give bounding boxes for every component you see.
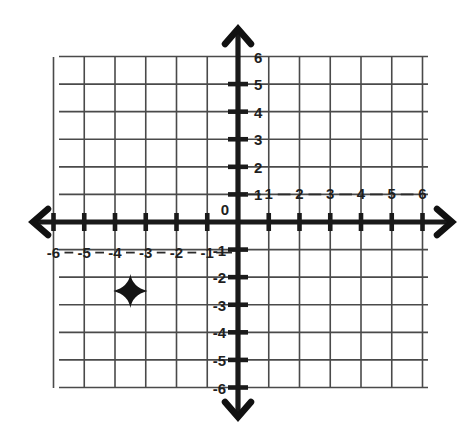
x-axis-label--4: -4 xyxy=(108,244,122,261)
x-axis-label--2: -2 xyxy=(170,244,183,261)
y-axis-label--2: -2 xyxy=(213,269,226,286)
coordinate-plane-graph: 0-6-5-4-3-2-1123456123456-1-2-3-4-5-6 xyxy=(0,0,475,438)
x-axis-label--5: -5 xyxy=(78,244,91,261)
y-axis-label-4: 4 xyxy=(254,104,263,121)
x-axis-label--3: -3 xyxy=(139,244,152,261)
x-axis-label-3: 3 xyxy=(326,185,334,202)
y-axis-label-1: 1 xyxy=(254,186,262,203)
y-axis-label--5: -5 xyxy=(213,352,226,369)
x-axis-label-4: 4 xyxy=(357,185,366,202)
coordinate-plane-svg: 0-6-5-4-3-2-1123456123456-1-2-3-4-5-6 xyxy=(0,0,475,438)
y-axis-label-6: 6 xyxy=(254,49,262,66)
y-axis-label-3: 3 xyxy=(254,131,262,148)
axes xyxy=(37,32,448,412)
origin-label: 0 xyxy=(221,201,229,218)
y-axis-label--6: -6 xyxy=(213,380,226,397)
y-axis-label-5: 5 xyxy=(254,76,262,93)
plotted-point-star xyxy=(113,274,147,308)
plotted-points xyxy=(113,274,147,308)
y-axis-label--4: -4 xyxy=(213,324,227,341)
y-axis-label--1: -1 xyxy=(213,242,226,259)
y-axis-label-2: 2 xyxy=(254,159,262,176)
x-axis-label-6: 6 xyxy=(418,185,426,202)
x-axis-label-2: 2 xyxy=(295,185,303,202)
x-axis-label-1: 1 xyxy=(265,185,273,202)
x-axis-label--6: -6 xyxy=(47,244,60,261)
x-axis-label-5: 5 xyxy=(388,185,396,202)
y-axis-label--3: -3 xyxy=(213,297,226,314)
